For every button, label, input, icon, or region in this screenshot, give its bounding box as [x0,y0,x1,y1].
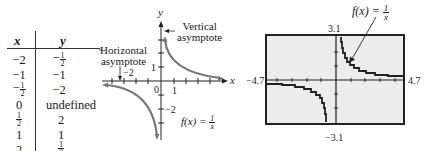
calculator-plot-svg [0,0,425,151]
calc-label-pointer [352,17,376,59]
calc-right-branch [341,37,403,76]
calc-left-branch [267,84,326,122]
pointer-arrow-icon [349,57,355,64]
